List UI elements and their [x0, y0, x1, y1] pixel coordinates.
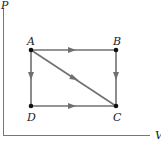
point-d — [29, 104, 34, 109]
label-a: A — [26, 35, 35, 48]
arrow-right-icon — [68, 47, 76, 53]
label-d: D — [26, 111, 36, 124]
point-a — [29, 48, 34, 53]
arrow-right-icon — [68, 103, 76, 109]
point-b — [114, 48, 119, 53]
arrow-down-icon — [113, 72, 119, 80]
arrow-diagonal-icon — [69, 74, 78, 80]
label-c: C — [113, 111, 122, 124]
x-axis-label: V — [155, 129, 161, 142]
label-b: B — [112, 35, 121, 48]
pv-diagram: P V A B C D — [0, 0, 161, 145]
arrow-down-icon — [28, 72, 34, 80]
point-c — [114, 104, 119, 109]
y-axis-label: P — [0, 0, 9, 12]
